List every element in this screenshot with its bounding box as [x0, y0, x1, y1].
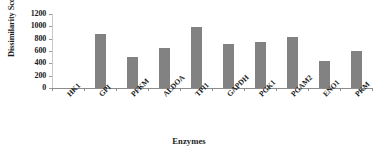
- y-axis-tick-label: 400: [18, 59, 46, 67]
- y-axis-tick-label: 1000: [18, 22, 46, 30]
- y-axis-tick-label: 800: [18, 35, 46, 43]
- x-axis-title: Enzymes: [0, 136, 378, 146]
- x-axis-tick-mark: [116, 88, 117, 91]
- x-axis-tick-mark: [244, 88, 245, 91]
- y-axis-title: Dissimilarity Score: [6, 0, 18, 70]
- x-axis-tick-mark: [308, 88, 309, 91]
- x-axis-tick-mark: [276, 88, 277, 91]
- x-axis-tick-mark: [84, 88, 85, 91]
- y-axis-tick-label: 1200: [18, 10, 46, 18]
- y-axis-tick-label-group: 020040060080010001200: [18, 8, 46, 96]
- x-axis-tick-mark: [148, 88, 149, 91]
- y-axis-tick-label: 600: [18, 47, 46, 55]
- x-axis-tick-mark: [340, 88, 341, 91]
- x-axis-tick-label-group: HK1GPIPFKMALDOATPI1GAPDHPGK1PGAM2ENO1PKM: [52, 92, 372, 132]
- x-axis-tick-mark: [180, 88, 181, 91]
- bar: [191, 27, 202, 88]
- x-axis-tick-mark: [372, 88, 373, 91]
- bar-chart-figure: Dissimilarity Score 02004006008001000120…: [0, 0, 378, 155]
- x-axis-tick-mark: [212, 88, 213, 91]
- x-axis-tick-mark: [52, 88, 53, 91]
- y-axis-tick-label: 0: [18, 84, 46, 92]
- y-axis-tick-label: 200: [18, 72, 46, 80]
